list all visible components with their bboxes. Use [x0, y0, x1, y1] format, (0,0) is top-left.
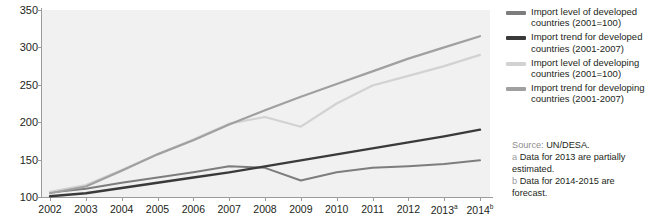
footnote-a-text: Data for 2013 are partially estimated. [512, 152, 625, 173]
legend-item[interactable]: Import trend for developing countries (2… [506, 82, 652, 104]
source-value: UN/DESA. [546, 140, 589, 150]
chart-plot-region: 100150200250300350 200220032004200520062… [0, 0, 500, 220]
legend-item[interactable]: Import level of developing countries (20… [506, 57, 652, 79]
chart-legend: Import level of developed countries (200… [506, 6, 652, 108]
series-line-developed_trend [50, 130, 480, 197]
footnote-a: a Data for 2013 are partially estimated. [512, 152, 652, 175]
legend-color-swatch-icon [506, 87, 526, 91]
series-line-developing_trend [50, 36, 480, 193]
footnote-b-marker: b [512, 176, 517, 186]
legend-color-swatch-icon [506, 11, 526, 15]
footnote-b-text: Data for 2014-2015 are forecast. [512, 176, 615, 197]
source-label: Source: [512, 140, 544, 150]
source-and-footnotes: Source: UN/DESA. a Data for 2013 are par… [512, 140, 652, 199]
legend-item[interactable]: Import level of developed countries (200… [506, 6, 652, 28]
legend-item-label: Import trend for developed countries (20… [531, 31, 652, 53]
legend-item[interactable]: Import trend for developed countries (20… [506, 31, 652, 53]
legend-item-label: Import trend for developing countries (2… [531, 82, 652, 104]
footnote-b: b Data for 2014-2015 are forecast. [512, 176, 652, 199]
legend-color-swatch-icon [506, 36, 526, 40]
footnote-a-marker: a [512, 152, 517, 162]
source-line: Source: UN/DESA. [512, 140, 652, 151]
chart-figure: 100150200250300350 200220032004200520062… [0, 0, 652, 220]
legend-item-label: Import level of developing countries (20… [531, 57, 652, 79]
chart-series-lines [0, 0, 500, 220]
series-line-developing_level [50, 55, 480, 192]
legend-color-swatch-icon [506, 62, 526, 66]
legend-item-label: Import level of developed countries (200… [531, 6, 652, 28]
